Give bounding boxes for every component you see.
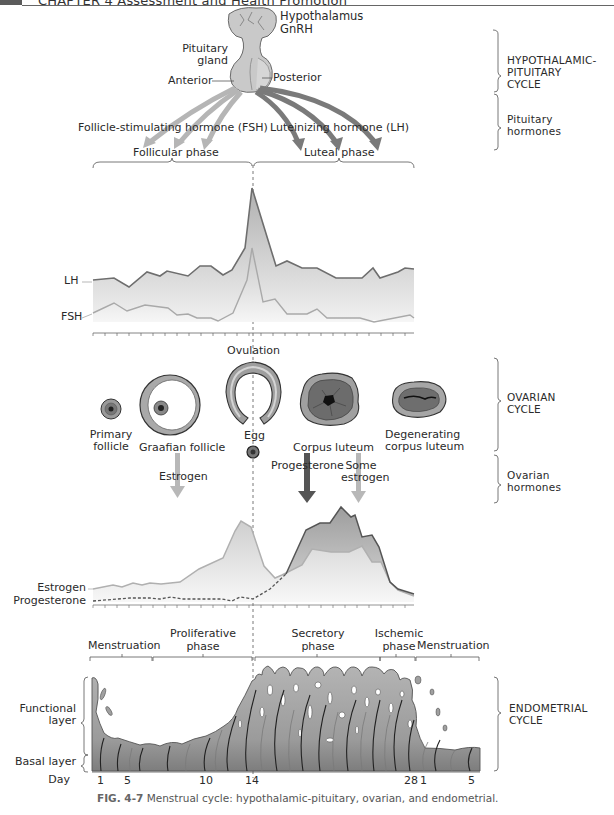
fsh-series-label: FSH: [61, 311, 82, 323]
degenerating-corpus-luteum-illustration: [393, 382, 446, 418]
day-tick: 1: [97, 775, 104, 787]
phase-secretory: Secretory phase: [285, 627, 351, 653]
endometrial-phase-braces: [90, 654, 479, 661]
egg-illustration: [247, 446, 259, 458]
figure-caption-text: Menstrual cycle: hypothalamic-pituitary,…: [147, 792, 499, 804]
primary-follicle-label-line2: follicle: [86, 441, 136, 453]
estrogen-series-label: Estrogen: [14, 582, 86, 594]
endometrium-illustration: [92, 666, 480, 771]
section-title-line: Ovarian: [507, 469, 561, 481]
gnrh-label: GnRH: [280, 23, 313, 35]
ovarian-cycle-title: OVARIAN CYCLE: [507, 391, 556, 415]
some-estrogen-label: Some estrogen: [341, 460, 381, 484]
phase-menstruation-2: Menstruation: [417, 640, 490, 652]
day-tick: 1: [420, 775, 427, 787]
figure-number: FIG. 4-7: [97, 792, 143, 804]
phase-braces: [93, 158, 414, 168]
corpus-luteum-label: Corpus luteum: [293, 442, 374, 454]
hypothalamic-pituitary-cycle-title: HYPOTHALAMIC- PITUITARY CYCLE: [507, 54, 597, 90]
day-label: Day: [30, 774, 70, 786]
posterior-label: Posterior: [273, 72, 322, 84]
anterior-label: Anterior: [168, 75, 212, 87]
section-title-line: CYCLE: [509, 714, 588, 726]
luteal-phase-label: Luteal phase: [304, 147, 374, 159]
ovulating-follicle-illustration: [226, 362, 281, 424]
section-title-line: hormones: [507, 481, 561, 493]
section-brackets: [493, 30, 501, 771]
ovulation-label: Ovulation: [227, 345, 280, 357]
primary-follicle-label: Primary follicle: [86, 429, 136, 453]
pituitary-gland-label-line2: gland: [168, 55, 228, 67]
primary-follicle-illustration: [101, 399, 121, 419]
day-tick: 14: [245, 775, 259, 787]
section-title-line: HYPOTHALAMIC-: [507, 54, 597, 66]
progesterone-series-label: Progesterone: [4, 595, 86, 607]
day-tick: 5: [124, 775, 131, 787]
basal-layer-label: Basal layer: [4, 756, 76, 768]
graafian-follicle-illustration: [140, 375, 200, 435]
day-tick: 5: [468, 775, 475, 787]
section-title-line: OVARIAN: [507, 391, 556, 403]
degenerating-corpus-luteum-label: Degenerating corpus luteum: [385, 429, 451, 453]
follicular-phase-label: Follicular phase: [133, 147, 219, 159]
fsh-label: Follicle-stimulating hormone (FSH): [78, 122, 268, 134]
phase-menstruation-1: Menstruation: [88, 640, 161, 652]
degenerating-label-line2: corpus luteum: [385, 441, 451, 453]
layer-brackets: [81, 677, 88, 772]
day-tick: 28: [404, 775, 418, 787]
section-title-line: hormones: [507, 125, 561, 137]
lh-series-label: LH: [64, 275, 78, 287]
phase-proliferative: Proliferative phase: [168, 627, 238, 653]
day-tick: 10: [199, 775, 213, 787]
hypothalamus-label: Hypothalamus: [280, 10, 363, 22]
ovarian-hormones-title: Ovarian hormones: [507, 469, 561, 493]
pituitary-hormones-title: Pituitary hormones: [507, 113, 561, 137]
section-title-line: ENDOMETRIAL: [509, 702, 588, 714]
some-estrogen-label-line2: estrogen: [341, 472, 381, 484]
graafian-follicle-label: Graafian follicle: [139, 442, 225, 454]
functional-layer-line2: layer: [10, 715, 76, 727]
pituitary-gland-label: Pituitary gland: [168, 43, 228, 67]
progesterone-arrow-label: Progesterone: [271, 460, 344, 472]
egg-label: Egg: [244, 430, 265, 442]
functional-layer-label: Functional layer: [10, 703, 76, 727]
ovarian-hormone-chart: [88, 507, 414, 608]
section-title-line: Pituitary: [507, 113, 561, 125]
figure-caption: FIG. 4-7 Menstrual cycle: hypothalamic-p…: [97, 792, 498, 804]
section-title-line: PITUITARY: [507, 66, 597, 78]
corpus-luteum-illustration: [300, 373, 358, 425]
estrogen-arrow-label: Estrogen: [159, 471, 208, 483]
lh-label: Luteinizing hormone (LH): [270, 122, 409, 134]
lh-fsh-chart: [82, 188, 414, 336]
endometrial-cycle-title: ENDOMETRIAL CYCLE: [509, 702, 588, 726]
section-title-line: CYCLE: [507, 403, 556, 415]
section-title-line: CYCLE: [507, 78, 597, 90]
